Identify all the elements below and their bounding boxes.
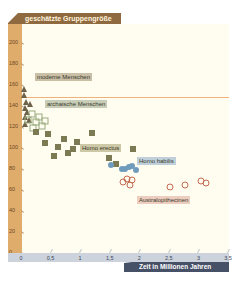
square-marker — [45, 131, 51, 137]
label-archaische-menschen: archaische Menschen — [45, 100, 107, 108]
ring-marker — [182, 181, 189, 188]
circle-marker — [133, 167, 139, 173]
x-tick-label: 2 — [138, 255, 141, 261]
x-axis-title: Zeit in Millionen Jahren — [139, 262, 211, 272]
label-homo-erectus: Homo erectus — [80, 144, 121, 152]
ring-marker — [127, 181, 134, 188]
x-tick-label: 3,5 — [224, 255, 232, 261]
square-marker — [106, 155, 112, 161]
chart-title: geschätzte Gruppengröße — [25, 13, 112, 24]
label-australopithecinen: Australopithecinen — [137, 196, 190, 204]
label-homo-habilis: Homo habilis — [137, 157, 176, 165]
x-tick-label: 0 — [19, 255, 22, 261]
square-marker — [42, 140, 48, 146]
square-marker — [70, 146, 76, 152]
square-marker — [89, 130, 95, 136]
ring-marker — [167, 183, 174, 190]
x-tick-label: 3 — [197, 255, 200, 261]
y-axis-band — [8, 24, 22, 254]
plot-area — [21, 24, 229, 253]
x-tick-label: 1,5 — [106, 255, 114, 261]
y-tick-label: 20 — [9, 228, 15, 234]
y-tick-label: 160 — [9, 81, 18, 87]
label-moderne-menschen: moderne Menschen — [35, 73, 92, 81]
y-tick-label: 80 — [9, 165, 15, 171]
square-marker — [55, 144, 61, 150]
y-tick-label: 200 — [9, 39, 18, 45]
square-marker — [33, 129, 39, 135]
x-tick-label: 1 — [79, 255, 82, 261]
square-marker — [130, 146, 136, 152]
triangle-marker — [21, 92, 27, 98]
open-square-marker — [25, 116, 32, 123]
y-tick-label: 140 — [9, 102, 18, 108]
y-tick-label: 100 — [9, 144, 18, 150]
circle-marker — [119, 166, 125, 172]
x-tick-label: 0,5 — [47, 255, 55, 261]
open-square-marker — [38, 123, 45, 130]
square-marker — [51, 153, 57, 159]
y-tick-label: 120 — [9, 123, 18, 129]
y-tick-label: 180 — [9, 60, 18, 66]
square-marker — [61, 136, 67, 142]
x-tick-label: 2,5 — [165, 255, 173, 261]
ring-marker — [202, 179, 209, 186]
circle-marker — [108, 162, 114, 168]
x-axis-band — [8, 253, 229, 262]
reference-line — [21, 97, 229, 98]
y-tick-label: 40 — [9, 207, 15, 213]
y-tick-label: 60 — [9, 186, 15, 192]
